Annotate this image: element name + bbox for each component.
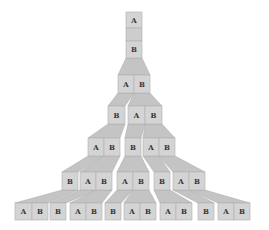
cell-label: B bbox=[145, 207, 151, 216]
expansion-trapezoid bbox=[88, 124, 125, 138]
cell-label: B bbox=[55, 207, 61, 216]
symbol-cell-a: A bbox=[173, 172, 189, 190]
cell-label: B bbox=[131, 45, 137, 54]
symbol-cell-b: B bbox=[159, 138, 175, 156]
symbol-cell-a: A bbox=[15, 203, 32, 220]
cell-label: B bbox=[101, 177, 107, 186]
symbol-cell-b: B bbox=[96, 172, 112, 190]
symbol-cell-b: B bbox=[105, 203, 121, 220]
cell-label: B bbox=[114, 111, 120, 120]
cell-label: A bbox=[20, 207, 27, 216]
symbol-cell-a: A bbox=[118, 75, 134, 93]
cell-label: B bbox=[239, 207, 245, 216]
symbol-cell-a: A bbox=[117, 172, 133, 190]
symbol-cell-b: B bbox=[134, 75, 150, 93]
symbol-cell-b: B bbox=[140, 203, 156, 220]
symbol-cell-b: B bbox=[32, 203, 48, 220]
cell-label: A bbox=[164, 207, 171, 216]
ab-rewriting-tree-diagram: ABABBABABBABBABABBABABBABBABABBAB bbox=[0, 0, 269, 230]
cell-label: B bbox=[130, 143, 136, 152]
symbol-cell-b: B bbox=[176, 203, 192, 220]
expansion-trapezoid bbox=[118, 58, 150, 75]
symbol-cell-b: B bbox=[133, 172, 149, 190]
symbol-cell-a: A bbox=[70, 203, 86, 220]
cell-label: B bbox=[109, 143, 115, 152]
symbol-cell-b: B bbox=[189, 172, 205, 190]
expansion-trapezoid bbox=[143, 124, 175, 138]
symbol-cell-b: B bbox=[108, 106, 125, 124]
blank-cell bbox=[126, 28, 142, 41]
symbol-cell-b: B bbox=[50, 203, 66, 220]
cell-label: A bbox=[74, 207, 81, 216]
cell-label: A bbox=[222, 207, 229, 216]
cell-label: B bbox=[159, 177, 165, 186]
cell-label: B bbox=[110, 207, 116, 216]
symbol-cell-a: A bbox=[128, 106, 145, 124]
cell-label: B bbox=[181, 207, 187, 216]
symbol-cell-a: A bbox=[126, 12, 142, 28]
cell-label: A bbox=[177, 177, 184, 186]
cell-label: A bbox=[84, 177, 91, 186]
symbol-cell-b: B bbox=[234, 203, 250, 220]
cell-label: A bbox=[133, 111, 140, 120]
symbol-cell-b: B bbox=[126, 41, 142, 58]
cell-label: B bbox=[67, 177, 73, 186]
cell-label: A bbox=[130, 16, 137, 25]
expansion-trapezoid bbox=[117, 156, 149, 172]
expansion-trapezoid bbox=[125, 124, 145, 138]
cell-label: B bbox=[37, 207, 43, 216]
symbol-cell-a: A bbox=[143, 138, 159, 156]
symbol-cell-a: A bbox=[218, 203, 234, 220]
symbol-cell-b: B bbox=[125, 138, 141, 156]
cell-label: A bbox=[122, 80, 129, 89]
cell-label: B bbox=[164, 143, 170, 152]
symbol-cell-b: B bbox=[86, 203, 102, 220]
expansion-trapezoid bbox=[128, 93, 162, 106]
cell-label: B bbox=[139, 80, 145, 89]
cell-label: B bbox=[91, 207, 97, 216]
cell-label: B bbox=[194, 177, 200, 186]
cell-label: B bbox=[203, 207, 209, 216]
cell-label: A bbox=[147, 143, 154, 152]
cell-label: B bbox=[138, 177, 144, 186]
symbol-cell-a: A bbox=[160, 203, 176, 220]
symbol-cell-a: A bbox=[80, 172, 96, 190]
symbol-cell-a: A bbox=[88, 138, 104, 156]
symbol-cell-b: B bbox=[104, 138, 120, 156]
cell-label: A bbox=[92, 143, 99, 152]
symbol-cell-b: B bbox=[62, 172, 78, 190]
symbol-cell-b: B bbox=[198, 203, 214, 220]
symbol-cell-b: B bbox=[154, 172, 170, 190]
cell-label: A bbox=[128, 207, 135, 216]
symbol-cell-a: A bbox=[124, 203, 140, 220]
symbol-cell-b: B bbox=[145, 106, 162, 124]
cell-label: B bbox=[151, 111, 157, 120]
symbol-cells: ABABBABABBABBABABBABABBABBABABBAB bbox=[15, 12, 250, 220]
cell-label: A bbox=[121, 177, 128, 186]
